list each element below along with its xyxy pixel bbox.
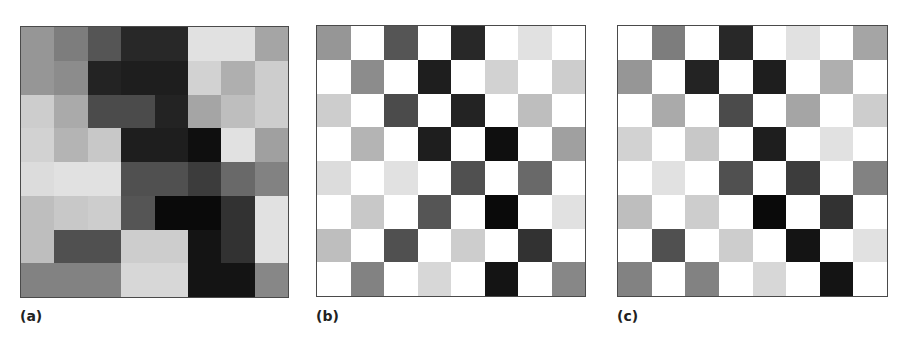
heatmap-cell: [221, 263, 254, 297]
heatmap-cell: [552, 60, 586, 94]
heatmap-cell: [719, 161, 753, 195]
heatmap-cell: [155, 263, 188, 297]
heatmap-cell: [54, 230, 87, 264]
heatmap-cell: [685, 262, 719, 296]
heatmap-cell: [351, 94, 385, 128]
heatmap-cell: [753, 161, 787, 195]
heatmap-cell: [54, 196, 87, 230]
heatmap-cell: [155, 128, 188, 162]
heatmap-cell: [451, 262, 485, 296]
heatmap-cell: [853, 60, 887, 94]
heatmap-cell: [155, 230, 188, 264]
heatmap-cell: [21, 95, 54, 129]
heatmap-cell: [221, 27, 254, 61]
heatmap-cell: [188, 128, 221, 162]
heatmap-cell: [351, 262, 385, 296]
heatmap-cell: [88, 230, 121, 264]
heatmap-cell: [753, 262, 787, 296]
heatmap-cell: [21, 263, 54, 297]
heatmap-cell: [652, 26, 686, 60]
heatmap-cell: [155, 95, 188, 129]
heatmap-cell: [853, 262, 887, 296]
heatmap-cell: [255, 162, 288, 196]
heatmap-cell: [451, 94, 485, 128]
heatmap-cell: [685, 127, 719, 161]
heatmap-grid-b: [316, 25, 586, 297]
heatmap-cell: [155, 27, 188, 61]
heatmap-cell: [351, 229, 385, 263]
heatmap-cell: [820, 94, 854, 128]
heatmap-cell: [54, 27, 87, 61]
heatmap-cell: [351, 26, 385, 60]
heatmap-cell: [255, 128, 288, 162]
heatmap-cell: [618, 94, 652, 128]
heatmap-cell: [317, 26, 351, 60]
heatmap-cell: [753, 195, 787, 229]
heatmap-cell: [618, 195, 652, 229]
heatmap-cell: [820, 161, 854, 195]
heatmap-cell: [54, 61, 87, 95]
heatmap-cell: [155, 162, 188, 196]
heatmap-cell: [685, 26, 719, 60]
heatmap-cell: [485, 229, 519, 263]
heatmap-cell: [221, 95, 254, 129]
heatmap-cell: [418, 262, 452, 296]
panel-label-a: (a): [20, 309, 42, 323]
heatmap-cell: [54, 95, 87, 129]
heatmap-cell: [485, 262, 519, 296]
heatmap-cell: [753, 26, 787, 60]
heatmap-cell: [88, 263, 121, 297]
heatmap-cell: [518, 195, 552, 229]
heatmap-cell: [786, 127, 820, 161]
heatmap-cell: [685, 229, 719, 263]
heatmap-cell: [652, 60, 686, 94]
heatmap-cell: [121, 27, 154, 61]
heatmap-cell: [753, 60, 787, 94]
heatmap-cell: [21, 162, 54, 196]
heatmap-cell: [820, 127, 854, 161]
heatmap-cell: [618, 127, 652, 161]
heatmap-cell: [121, 95, 154, 129]
heatmap-cell: [54, 263, 87, 297]
heatmap-cell: [552, 229, 586, 263]
heatmap-cell: [485, 161, 519, 195]
heatmap-cell: [820, 262, 854, 296]
heatmap-cell: [518, 229, 552, 263]
heatmap-cell: [652, 161, 686, 195]
heatmap-cell: [317, 195, 351, 229]
heatmap-cell: [719, 195, 753, 229]
heatmap-cell: [719, 94, 753, 128]
heatmap-cell: [351, 60, 385, 94]
heatmap-cell: [384, 94, 418, 128]
heatmap-cell: [384, 262, 418, 296]
heatmap-cell: [418, 127, 452, 161]
heatmap-cell: [820, 60, 854, 94]
heatmap-cell: [384, 60, 418, 94]
heatmap-cell: [685, 195, 719, 229]
heatmap-cell: [853, 127, 887, 161]
heatmap-cell: [552, 127, 586, 161]
heatmap-cell: [384, 161, 418, 195]
heatmap-cell: [121, 162, 154, 196]
heatmap-cell: [552, 195, 586, 229]
heatmap-cell: [155, 196, 188, 230]
heatmap-cell: [317, 60, 351, 94]
heatmap-cell: [351, 127, 385, 161]
heatmap-cell: [255, 27, 288, 61]
heatmap-cell: [351, 195, 385, 229]
heatmap-cell: [384, 26, 418, 60]
heatmap-cell: [317, 262, 351, 296]
heatmap-cell: [719, 127, 753, 161]
heatmap-cell: [853, 26, 887, 60]
heatmap-cell: [518, 127, 552, 161]
heatmap-cell: [418, 94, 452, 128]
panel-label-c: (c): [617, 309, 638, 323]
heatmap-cell: [685, 161, 719, 195]
heatmap-cell: [820, 195, 854, 229]
heatmap-cell: [418, 229, 452, 263]
heatmap-cell: [485, 26, 519, 60]
heatmap-cell: [786, 60, 820, 94]
heatmap-cell: [552, 94, 586, 128]
heatmap-cell: [618, 26, 652, 60]
heatmap-cell: [552, 161, 586, 195]
